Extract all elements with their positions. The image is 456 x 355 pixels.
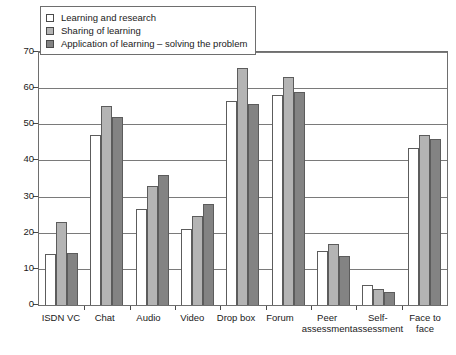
x-tick-label: Face to face [403, 312, 447, 334]
x-tick-mark [220, 306, 221, 310]
x-tick-mark [266, 306, 267, 310]
legend-swatch-icon [46, 40, 54, 48]
bar [294, 92, 305, 305]
chart-legend: Learning and research Sharing of learnin… [40, 6, 256, 55]
x-tick-label: Chat [83, 312, 127, 334]
bar-group [39, 52, 84, 305]
y-tick-label: 0 [8, 299, 34, 309]
y-tick-label: 40 [8, 155, 34, 165]
x-tick-mark [356, 306, 357, 310]
legend-label: Learning and research [61, 13, 156, 23]
bar [272, 95, 283, 305]
legend-swatch-icon [46, 27, 54, 35]
bar-groups [39, 52, 447, 305]
x-tick-label: Self- assessment [352, 312, 403, 334]
y-tick-label: 50 [8, 119, 34, 129]
x-tick-mark [175, 306, 176, 310]
x-tick-mark [311, 306, 312, 310]
legend-item-sharing-of-learning: Sharing of learning [46, 24, 247, 37]
bar-chart: Learning and research Sharing of learnin… [0, 0, 456, 355]
y-tick-label: 20 [8, 227, 34, 237]
x-tick-mark [130, 306, 131, 310]
x-tick-label: Audio [127, 312, 171, 334]
legend-label: Application of learning – solving the pr… [61, 39, 247, 49]
bar [430, 139, 441, 305]
bar [203, 204, 214, 305]
bar [56, 222, 67, 305]
x-tick-label: Video [170, 312, 214, 334]
legend-label: Sharing of learning [61, 26, 141, 36]
bar [237, 68, 248, 305]
bar [373, 289, 384, 305]
y-tick-label: 60 [8, 82, 34, 92]
legend-swatch-icon [46, 14, 54, 22]
bar-group [266, 52, 311, 305]
x-tick-label: ISDN VC [39, 312, 83, 334]
bar-group [356, 52, 401, 305]
y-tick-label: 30 [8, 191, 34, 201]
bar [226, 101, 237, 305]
bar-group [130, 52, 175, 305]
bar [317, 251, 328, 305]
bar [384, 292, 395, 305]
x-tick-mark [84, 306, 85, 310]
bar [408, 148, 419, 305]
y-tick-label: 10 [8, 263, 34, 273]
bar [45, 254, 56, 305]
bar [90, 135, 101, 305]
bar [136, 209, 147, 305]
x-tick-label: Drop box [214, 312, 258, 334]
legend-item-learning-and-research: Learning and research [46, 11, 247, 24]
bar [339, 256, 350, 305]
y-axis-labels: 010203040506070 [4, 51, 34, 306]
bar [192, 216, 203, 305]
bar [181, 229, 192, 305]
y-tick-label: 70 [8, 46, 34, 56]
x-axis-ticks [39, 306, 447, 311]
bar [283, 77, 294, 305]
bar [158, 175, 169, 305]
bar-group [175, 52, 220, 305]
bar-group [84, 52, 129, 305]
bar [362, 285, 373, 305]
bar-group [402, 52, 447, 305]
bar [419, 135, 430, 305]
bar [101, 106, 112, 305]
legend-item-application-of-learning: Application of learning – solving the pr… [46, 37, 247, 50]
x-tick-mark [402, 306, 403, 310]
bar [147, 186, 158, 305]
bar-group [311, 52, 356, 305]
x-tick-label: Peer assessment [302, 312, 353, 334]
bar [328, 244, 339, 305]
bar [248, 104, 259, 305]
bar [112, 117, 123, 305]
x-tick-label: Forum [258, 312, 302, 334]
bar-group [220, 52, 265, 305]
bar [67, 253, 78, 305]
x-axis-labels: ISDN VCChatAudioVideoDrop boxForumPeer a… [39, 312, 447, 334]
